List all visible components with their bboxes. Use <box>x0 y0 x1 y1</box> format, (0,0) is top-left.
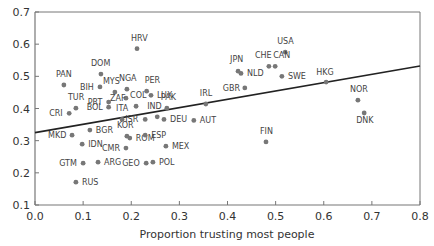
point-label: AUT <box>200 116 216 125</box>
point-marker <box>98 85 103 90</box>
data-point-pan: PAN <box>56 70 72 87</box>
data-point-dom: DOM <box>91 59 110 76</box>
point-marker <box>106 105 111 110</box>
data-point-zaf: ZAF <box>110 94 128 103</box>
data-points: HRVUSACHECANJPNNLDSWEDOMHKGPANBIHGBRNGAM… <box>48 34 374 187</box>
point-label: HRV <box>131 34 148 43</box>
data-point-col: COL <box>130 91 147 108</box>
point-marker <box>151 160 156 165</box>
data-point-fin: FIN <box>260 127 273 144</box>
point-marker <box>264 140 269 145</box>
data-point-bol: BOL <box>87 103 111 112</box>
data-point-che: CHE <box>255 51 272 68</box>
point-label: MKD <box>48 131 66 140</box>
point-marker <box>70 133 75 138</box>
point-label: NLD <box>247 69 264 78</box>
point-marker <box>149 93 154 98</box>
point-marker <box>143 117 148 122</box>
point-marker <box>125 87 130 92</box>
point-marker <box>106 100 111 105</box>
point-marker <box>99 72 104 77</box>
y-tick-label: 0.3 <box>13 135 31 148</box>
point-label: USA <box>277 37 294 46</box>
data-point-ind: IND <box>147 102 162 119</box>
point-marker <box>134 104 139 109</box>
point-marker <box>74 106 79 111</box>
point-label: ESP <box>151 131 166 140</box>
point-label: BIH <box>80 83 94 92</box>
x-tick-label: 0.7 <box>363 210 381 223</box>
x-tick-label: 0.8 <box>411 210 429 223</box>
point-label: MEX <box>172 142 190 151</box>
point-marker <box>144 161 149 166</box>
point-label: NOR <box>350 85 368 94</box>
point-label: IDN <box>88 140 103 149</box>
data-point-gbr: GBR <box>223 84 247 93</box>
point-marker <box>80 142 85 147</box>
x-tick-label: 0.3 <box>171 210 189 223</box>
point-label: JPN <box>229 55 243 64</box>
point-marker <box>203 102 208 107</box>
point-label: COL <box>130 91 147 100</box>
point-label: GTM <box>59 159 77 168</box>
data-point-arg: ARG <box>96 158 122 167</box>
point-label: PAK <box>161 93 177 102</box>
point-marker <box>61 83 66 88</box>
data-point-tur: TUR <box>67 93 85 110</box>
point-label: POL <box>159 158 175 167</box>
data-point-gtm: GTM <box>59 159 85 168</box>
point-marker <box>279 74 284 79</box>
point-label: ARG <box>104 158 121 167</box>
point-label: ZAF <box>110 94 126 103</box>
x-axis-ticks: 0.00.10.20.30.40.50.60.70.8 <box>26 201 429 223</box>
point-marker <box>356 98 361 103</box>
x-tick-label: 0.5 <box>267 210 285 223</box>
data-point-swe: SWE <box>279 72 305 81</box>
point-label: PER <box>145 76 161 85</box>
point-label: DNK <box>356 116 374 125</box>
point-label: BGR <box>96 126 114 135</box>
data-point-aut: AUT <box>191 116 216 125</box>
point-label: CMR <box>102 144 120 153</box>
data-point-mkd: MKD <box>48 131 74 140</box>
point-marker <box>127 136 132 141</box>
data-point-kor: KOR <box>117 121 134 138</box>
point-marker <box>67 111 72 116</box>
y-tick-label: 0.1 <box>13 199 31 212</box>
x-axis-title: Proportion trusting most people <box>140 228 315 241</box>
point-label: PAN <box>56 70 72 79</box>
data-point-geo: GEO <box>122 159 148 168</box>
point-marker <box>191 118 196 123</box>
point-label: GEO <box>122 159 140 168</box>
data-point-bih: BIH <box>80 83 102 92</box>
y-tick-label: 0.2 <box>13 167 31 180</box>
y-tick-label: 0.6 <box>13 38 31 51</box>
data-point-nga: NGA <box>119 74 137 91</box>
point-label: RUS <box>82 178 99 187</box>
point-label: CHE <box>255 51 272 60</box>
data-point-pol: POL <box>151 158 176 167</box>
y-tick-label: 0.7 <box>13 6 31 19</box>
data-point-cri: CRI <box>49 109 71 118</box>
point-label: MYS <box>103 77 120 86</box>
point-label: KOR <box>117 121 134 130</box>
point-label: GBR <box>223 84 241 93</box>
data-point-deu: DEU <box>162 115 188 124</box>
point-marker <box>362 111 367 116</box>
point-marker <box>242 86 247 91</box>
point-marker <box>135 46 140 51</box>
point-marker <box>164 106 169 111</box>
point-label: DOM <box>91 59 110 68</box>
data-point-nor: NOR <box>350 85 368 102</box>
point-label: SWE <box>288 72 306 81</box>
data-point-can: CAN <box>273 51 290 68</box>
point-label: TUR <box>67 93 85 102</box>
data-point-cmr: CMR <box>102 144 128 153</box>
x-tick-label: 0.2 <box>123 210 141 223</box>
data-point-jpn: JPN <box>229 55 243 73</box>
point-marker <box>266 64 271 69</box>
data-point-idn: IDN <box>80 140 103 149</box>
point-label: IND <box>147 102 162 111</box>
data-point-mys: MYS <box>103 77 120 94</box>
data-point-bgr: BGR <box>87 126 113 135</box>
